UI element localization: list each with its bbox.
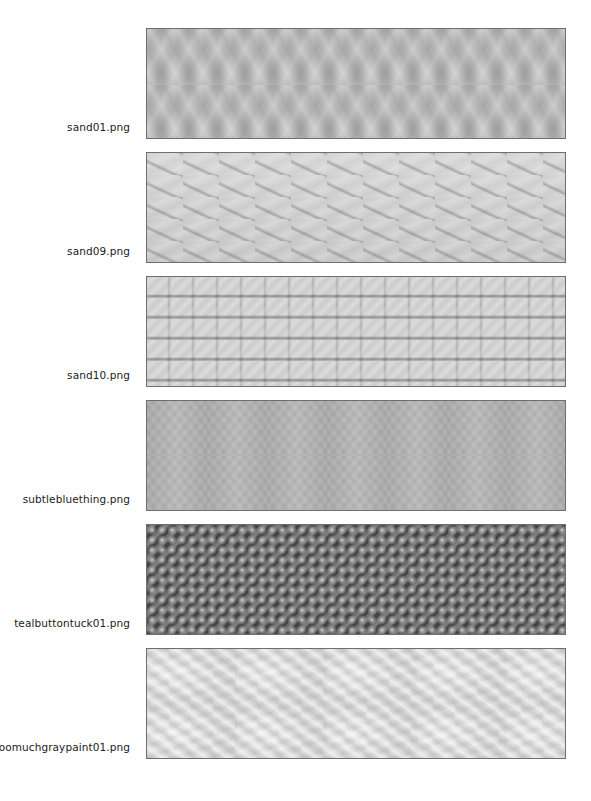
texture-filename-label: sand09.png: [67, 245, 130, 257]
texture-filename-label: toomuchgraypaint01.png: [0, 741, 130, 753]
texture-filename-label: tealbuttontuck01.png: [14, 617, 130, 629]
texture-row-tealbuttontuck01: tealbuttontuck01.png: [0, 524, 591, 635]
texture-swatch-tealbuttontuck01: [146, 524, 566, 635]
texture-swatch-sand10: [146, 276, 566, 387]
texture-row-toomuchgraypaint01: toomuchgraypaint01.png: [0, 648, 591, 759]
texture-row-sand10: sand10.png: [0, 276, 591, 387]
texture-filename-label: subtlebluething.png: [23, 493, 130, 505]
texture-row-subtlebluething: subtlebluething.png: [0, 400, 591, 511]
texture-swatch-sand01: [146, 28, 566, 139]
texture-filename-label: sand01.png: [67, 121, 130, 133]
texture-swatch-toomuchgraypaint01: [146, 648, 566, 759]
texture-swatch-subtlebluething: [146, 400, 566, 511]
texture-row-sand09: sand09.png: [0, 152, 591, 263]
texture-gallery: sand01.png sand09.png sand10.png subtleb…: [0, 0, 591, 801]
texture-swatch-sand09: [146, 152, 566, 263]
texture-row-sand01: sand01.png: [0, 28, 591, 139]
texture-filename-label: sand10.png: [67, 369, 130, 381]
